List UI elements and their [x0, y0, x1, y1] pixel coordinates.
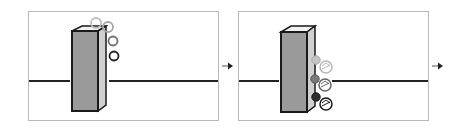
ring-icon — [109, 37, 118, 46]
ring-icon — [110, 52, 119, 61]
diagram-canvas — [0, 0, 467, 131]
bound-sphere-dark — [312, 93, 332, 110]
arrow-right-icon — [432, 63, 443, 70]
panel-2-content — [239, 26, 428, 112]
panel-1-content — [29, 18, 218, 111]
pillar — [281, 26, 315, 112]
pillar — [72, 26, 106, 111]
arrow-right-icon — [222, 63, 233, 70]
